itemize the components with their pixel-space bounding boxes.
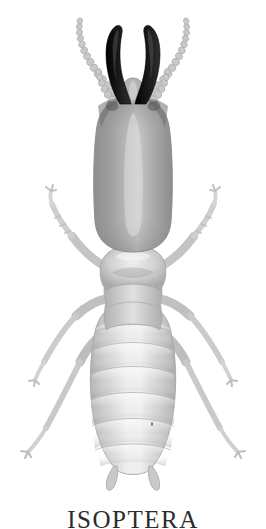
left-cercus [106,466,117,490]
abdomen [90,302,175,475]
right-antennal-socket [148,101,161,111]
abdomen-speck [151,422,153,426]
thorax [100,246,166,330]
figure-caption: ISOPTERA [0,507,266,529]
right-cercus [148,466,159,490]
left-antennal-socket [106,101,119,111]
head-capsule [94,98,173,252]
